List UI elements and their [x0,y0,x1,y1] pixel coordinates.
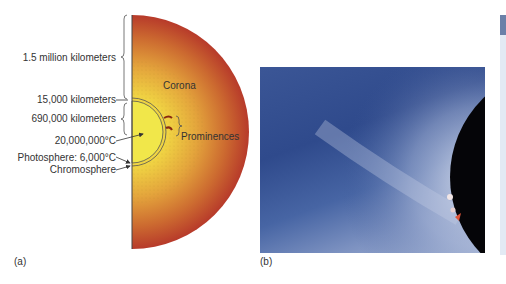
photosphere-label: Photosphere: 6,000°C [17,152,116,164]
photosphere-radius-label: 690,000 kilometers [32,113,117,125]
panel-label-b: (b) [260,256,272,267]
adjacent-figure-header [500,15,506,35]
corona-extent-label: 1.5 million kilometers [23,52,116,64]
chromosphere-thickness-label: 15,000 kilometers [37,94,116,106]
corona-temperature-label: 20,000,000°C [55,135,116,147]
adjacent-figure-edge [500,15,506,255]
chromosphere-label: Chromosphere [50,164,116,176]
solar-corona-photo [260,67,485,253]
panel-label-a: (a) [14,256,26,267]
corona-label: Corona [163,80,196,92]
prominences-label: Prominences [181,131,239,143]
